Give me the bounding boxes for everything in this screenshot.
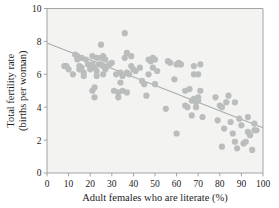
x-axis-tick-label: 60 [172, 179, 182, 189]
data-point [70, 71, 76, 77]
data-point [215, 117, 221, 123]
data-point [236, 116, 242, 122]
y-axis: 0246810 [32, 4, 47, 179]
data-point [253, 127, 259, 133]
plot-canvas: 02468100102030405060708090100Adult femal… [0, 0, 279, 208]
data-point [152, 56, 158, 62]
data-point [195, 98, 201, 104]
data-point [109, 60, 115, 66]
data-point [223, 99, 229, 105]
x-axis-tick-label: 0 [45, 179, 50, 189]
scatter-plot-figure: 02468100102030405060708090100Adult femal… [0, 0, 279, 208]
data-point [197, 61, 203, 67]
data-point [219, 144, 225, 150]
x-axis-tick-label: 20 [85, 179, 95, 189]
data-point [167, 60, 173, 66]
y-axis-title-line1: Total fertility rate [5, 53, 16, 127]
x-axis-tick-label: 100 [256, 179, 271, 189]
data-point [219, 104, 225, 110]
data-point [143, 93, 149, 99]
data-point [66, 66, 72, 72]
data-point [189, 112, 195, 118]
data-point [102, 56, 108, 62]
x-axis-tick-label: 70 [193, 179, 203, 189]
data-point [212, 94, 218, 100]
data-point [195, 71, 201, 77]
data-point [174, 130, 180, 136]
y-axis-tick-label: 6 [37, 70, 42, 80]
data-point [232, 139, 238, 145]
data-point [94, 73, 100, 79]
x-axis-tick-label: 80 [215, 179, 225, 189]
data-point [163, 106, 169, 112]
data-point [191, 63, 197, 69]
y-axis-tick-label: 4 [37, 103, 42, 113]
data-point [98, 42, 104, 48]
data-point [171, 76, 177, 82]
y-axis-tick-label: 2 [37, 136, 42, 146]
x-axis-tick-label: 40 [129, 179, 139, 189]
data-point [122, 30, 128, 36]
x-axis-title: Adult females who are literate (%) [82, 192, 228, 204]
data-point [81, 73, 87, 79]
data-point [221, 125, 227, 131]
data-point [238, 122, 244, 128]
data-point [115, 94, 121, 100]
y-axis-tick-label: 8 [37, 37, 42, 47]
data-point [230, 130, 236, 136]
data-point [137, 65, 143, 71]
x-axis-tick-label: 30 [107, 179, 117, 189]
data-point [128, 53, 134, 59]
y-axis-title-line2: (births per woman) [17, 50, 29, 131]
data-point [91, 94, 97, 100]
data-point [91, 84, 97, 90]
plot-area-background [47, 9, 263, 174]
data-point [117, 79, 123, 85]
data-point [199, 114, 205, 120]
data-point [228, 119, 234, 125]
data-point [154, 68, 160, 74]
data-point [145, 71, 151, 77]
y-axis-tick-label: 10 [32, 4, 42, 14]
data-point [126, 71, 132, 77]
data-point [249, 147, 255, 153]
data-point [124, 89, 130, 95]
data-point [234, 145, 240, 151]
data-point [225, 93, 231, 99]
data-point [197, 88, 203, 94]
data-point [141, 81, 147, 87]
x-axis-tick-label: 10 [64, 179, 74, 189]
data-point [232, 99, 238, 105]
data-point [243, 139, 249, 145]
data-point [247, 132, 253, 138]
data-point [193, 104, 199, 110]
data-point [186, 86, 192, 92]
data-point [178, 61, 184, 67]
y-axis-tick-label: 0 [37, 168, 42, 178]
data-point [184, 104, 190, 110]
x-axis-tick-label: 50 [150, 179, 160, 189]
x-axis-tick-label: 90 [237, 179, 247, 189]
data-point [152, 81, 158, 87]
data-point [251, 121, 257, 127]
data-point [245, 114, 251, 120]
x-axis: 0102030405060708090100 [45, 173, 271, 189]
y-axis-title: Total fertility rate(births per woman) [5, 50, 29, 131]
